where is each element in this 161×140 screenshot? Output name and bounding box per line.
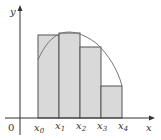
- rectangle-2: [59, 33, 80, 118]
- rectangle-3: [80, 47, 101, 118]
- y-axis-arrow-icon: [18, 5, 23, 11]
- rectangle-4: [101, 86, 122, 118]
- tick-label-x3: x3: [97, 120, 108, 133]
- y-axis-label: y: [9, 6, 16, 17]
- rectangles: [38, 33, 122, 118]
- origin-label: 0: [8, 122, 14, 133]
- tick-label-x4: x4: [118, 120, 128, 133]
- x-axis-label: x: [146, 122, 152, 133]
- riemann-diagram: y x 0 x0 x1 x2 x3 x4: [0, 0, 161, 140]
- tick-label-x0: x0: [34, 122, 45, 135]
- x-axis-arrow-icon: [149, 116, 155, 121]
- tick-label-x1: x1: [55, 120, 65, 133]
- rectangle-1: [38, 35, 59, 118]
- tick-label-x2: x2: [76, 120, 87, 133]
